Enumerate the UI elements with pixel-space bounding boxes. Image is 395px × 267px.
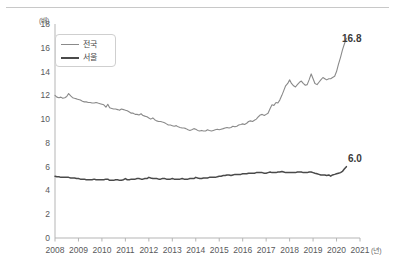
legend-line-icon-national [61,44,79,45]
legend-item-national[interactable]: 전국 [61,38,97,51]
legend-line-icon-seoul [61,57,79,59]
series-line-seoul [55,167,346,181]
end-value-label-seoul: 6.0 [348,153,362,164]
end-value-label-national: 16.8 [342,33,361,44]
legend-label-seoul: 서울 [83,53,97,63]
chart-legend: 전국 서울 [55,34,116,67]
legend-item-seoul[interactable]: 서울 [61,51,97,64]
legend-label-national: 전국 [83,40,97,50]
chart-figure: (배) 024681012141618 20082009201020112012… [0,0,395,267]
